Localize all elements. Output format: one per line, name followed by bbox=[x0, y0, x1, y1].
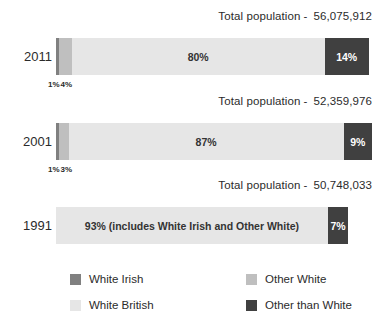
bar-segment-other_white[interactable] bbox=[59, 123, 68, 160]
bar-segment-label-white_irish: 1% bbox=[48, 165, 60, 174]
bar-2001[interactable]: 87%9% bbox=[56, 123, 372, 160]
legend-label-white-british: White British bbox=[89, 299, 154, 311]
bar-2011[interactable]: 80%14% bbox=[56, 38, 372, 75]
bar-segment-label-white_irish: 1% bbox=[48, 80, 60, 89]
bar-area-2011: 80%14% 1%4% bbox=[0, 38, 380, 75]
bar-segment-white_british[interactable]: 80% bbox=[72, 38, 325, 75]
bar-segment-other_than_white[interactable]: 14% bbox=[325, 38, 369, 75]
stacked-bar-chart: Total population-56,075,912 2011 80%14% … bbox=[0, 0, 380, 328]
total-population-label-1991: Total population-50,748,033 bbox=[218, 179, 372, 191]
legend-label-other-white: Other White bbox=[265, 273, 326, 285]
legend-swatch-white-british bbox=[70, 300, 81, 311]
legend-item-white-irish[interactable]: White Irish bbox=[70, 271, 143, 287]
total-population-separator: - bbox=[301, 179, 311, 191]
bar-segment-label: 14% bbox=[336, 51, 357, 63]
total-population-label-2011: Total population-56,075,912 bbox=[218, 10, 372, 22]
legend-swatch-other-white bbox=[246, 274, 257, 285]
legend-item-other-white[interactable]: Other White bbox=[246, 271, 326, 287]
legend-label-white-irish: White Irish bbox=[89, 273, 143, 285]
legend-item-other-than-white[interactable]: Other than White bbox=[246, 297, 352, 313]
bar-segment-other_white[interactable] bbox=[59, 38, 72, 75]
total-population-value: 56,075,912 bbox=[310, 10, 372, 22]
total-population-value: 50,748,033 bbox=[310, 179, 372, 191]
legend-swatch-other-than-white bbox=[246, 300, 257, 311]
bar-segment-label: 80% bbox=[188, 51, 209, 63]
chart-legend: White Irish Other White White British Ot… bbox=[0, 268, 380, 324]
total-population-separator: - bbox=[301, 95, 311, 107]
bar-1991[interactable]: 93% (includes White Irish and Other Whit… bbox=[56, 207, 348, 244]
total-population-separator: - bbox=[301, 10, 311, 22]
total-population-text: Total population bbox=[218, 179, 300, 191]
bar-segment-label: 7% bbox=[330, 220, 345, 232]
total-population-text: Total population bbox=[218, 95, 300, 107]
bar-segment-label: 9% bbox=[350, 136, 365, 148]
bar-segment-label-other_white: 3% bbox=[61, 165, 73, 174]
bar-area-1991: 93% (includes White Irish and Other Whit… bbox=[0, 207, 380, 244]
bar-segment-label: 93% (includes White Irish and Other Whit… bbox=[85, 220, 299, 232]
bar-segment-label-other_white: 4% bbox=[61, 80, 73, 89]
total-population-label-2001: Total population-52,359,976 bbox=[218, 95, 372, 107]
bar-area-2001: 87%9% 1%3% bbox=[0, 123, 380, 160]
bar-segment-label: 87% bbox=[196, 136, 217, 148]
bar-segment-white_british[interactable]: 87% bbox=[69, 123, 344, 160]
legend-swatch-white-irish bbox=[70, 274, 81, 285]
legend-item-white-british[interactable]: White British bbox=[70, 297, 154, 313]
bar-segment-other_than_white[interactable]: 7% bbox=[328, 207, 348, 244]
bar-segment-other_than_white[interactable]: 9% bbox=[344, 123, 372, 160]
total-population-text: Total population bbox=[218, 10, 300, 22]
legend-label-other-than-white: Other than White bbox=[265, 299, 352, 311]
total-population-value: 52,359,976 bbox=[310, 95, 372, 107]
bar-segment-white_british[interactable]: 93% (includes White Irish and Other Whit… bbox=[56, 207, 328, 244]
